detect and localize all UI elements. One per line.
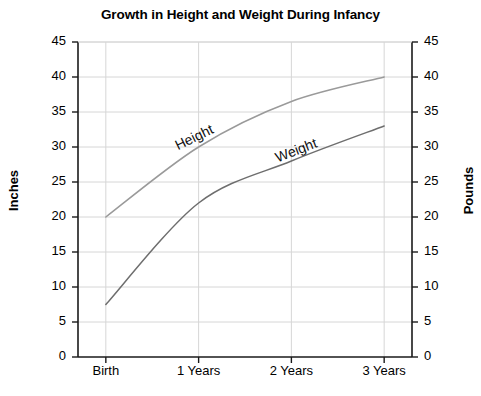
series-line-weight: [106, 126, 384, 305]
chart-container: Growth in Height and Weight During Infan…: [0, 0, 481, 396]
data-series: [106, 77, 384, 305]
plot-area: [0, 0, 481, 396]
